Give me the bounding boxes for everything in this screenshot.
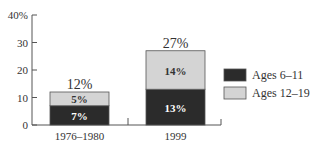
bar-group: 7%5%12%1976–1980 bbox=[50, 77, 109, 142]
legend-swatch bbox=[224, 87, 246, 99]
y-tick-label: 10 bbox=[17, 92, 29, 104]
legend-item: Ages 6–11 bbox=[224, 68, 303, 82]
x-tick-label: 1999 bbox=[165, 130, 188, 142]
stacked-bar-chart: 010203040% 7%5%12%1976–198013%14%27%1999… bbox=[0, 0, 312, 153]
legend-label: Ages 12–19 bbox=[252, 86, 310, 100]
y-tick-label: 40% bbox=[8, 9, 28, 21]
bar-total-label: 12% bbox=[67, 77, 93, 92]
legend-label: Ages 6–11 bbox=[252, 68, 303, 82]
bars: 7%5%12%1976–198013%14%27%1999 bbox=[50, 36, 205, 142]
y-tick-label: 20 bbox=[17, 64, 29, 76]
legend-swatch bbox=[224, 69, 246, 81]
bar-segment-label: 7% bbox=[71, 110, 88, 122]
legend-item: Ages 12–19 bbox=[224, 86, 310, 100]
bar-group: 13%14%27%1999 bbox=[146, 36, 205, 142]
y-tick-label: 30 bbox=[17, 37, 29, 49]
y-tick-label: 0 bbox=[23, 119, 29, 131]
chart-canvas: 010203040% 7%5%12%1976–198013%14%27%1999… bbox=[0, 0, 312, 153]
x-tick-label: 1976–1980 bbox=[55, 130, 105, 142]
bar-segment-label: 13% bbox=[165, 102, 187, 114]
legend: Ages 6–11Ages 12–19 bbox=[224, 68, 310, 100]
bar-segment-label: 5% bbox=[71, 93, 88, 105]
bar-total-label: 27% bbox=[163, 36, 189, 51]
bar-segment-label: 14% bbox=[165, 65, 187, 77]
